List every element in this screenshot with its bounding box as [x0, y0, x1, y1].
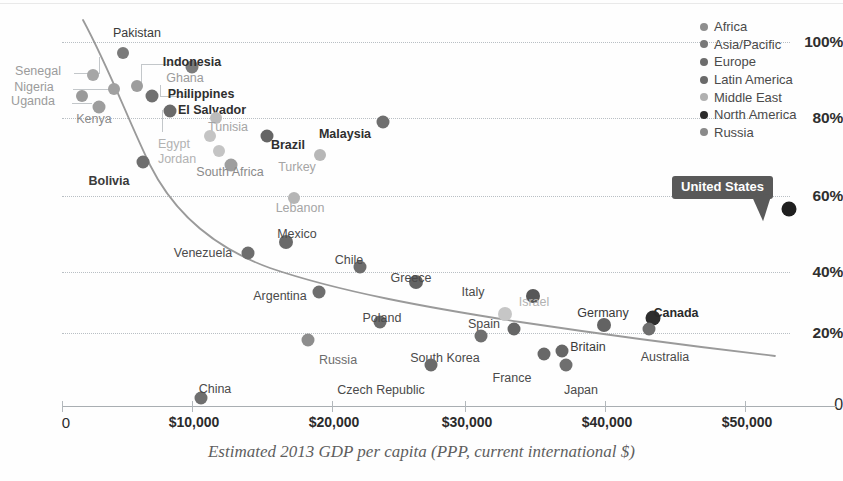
x-tick-0	[62, 401, 63, 412]
leader-senegal-v	[99, 57, 100, 74]
data-point[interactable]	[424, 359, 437, 372]
data-point[interactable]	[108, 83, 120, 95]
x-tick-label-10000: $10,000	[169, 414, 220, 430]
data-point[interactable]	[146, 90, 159, 103]
point-label: Israel	[519, 296, 550, 309]
data-point[interactable]	[314, 149, 326, 161]
point-label: Tunisia	[208, 121, 248, 134]
point-label: South Africa	[196, 166, 263, 179]
legend-label: Middle East	[714, 90, 782, 105]
data-point[interactable]	[643, 322, 656, 335]
x-axis-title: Estimated 2013 GDP per capita (PPP, curr…	[0, 442, 843, 462]
united-states-callout: United States	[672, 176, 773, 199]
y-tick-20: 20%	[785, 324, 843, 342]
data-point[interactable]	[131, 80, 143, 92]
legend-swatch-icon	[700, 76, 708, 84]
legend-label: North America	[714, 107, 796, 122]
data-point[interactable]	[163, 104, 176, 117]
point-label: Japan	[564, 384, 598, 397]
legend-item-asia-pacific[interactable]: Asia/Pacific	[700, 36, 840, 54]
gridline-100	[62, 42, 790, 43]
point-label: Spain	[468, 318, 500, 331]
legend-item-latin-america[interactable]: Latin America	[700, 71, 840, 89]
x-tick-20000	[332, 401, 333, 412]
legend-label: Africa	[714, 19, 747, 34]
data-point[interactable]	[377, 115, 390, 128]
point-label: Turkey	[278, 161, 316, 174]
legend-swatch-icon	[700, 128, 708, 136]
data-point[interactable]	[204, 130, 216, 142]
point-label: Philippines	[168, 88, 235, 101]
gridline-80	[62, 118, 790, 119]
point-label: Pakistan	[113, 27, 161, 40]
point-label: Venezuela	[174, 247, 232, 260]
data-point[interactable]	[312, 286, 325, 299]
data-point[interactable]	[117, 47, 129, 59]
data-point[interactable]	[781, 201, 796, 216]
point-label: Senegal	[15, 65, 61, 78]
y-tick-40: 40%	[785, 263, 843, 281]
legend-swatch-icon	[700, 40, 708, 48]
data-point[interactable]	[213, 145, 225, 157]
x-tick-30000	[465, 401, 466, 412]
legend-label: Asia/Pacific	[714, 37, 781, 52]
point-label: Russia	[319, 354, 357, 367]
point-label: Mexico	[277, 228, 317, 241]
point-label: Egypt	[158, 138, 190, 151]
point-label: Indonesia	[163, 56, 221, 69]
legend-swatch-icon	[700, 93, 708, 101]
legend-item-africa[interactable]: Africa	[700, 18, 840, 36]
legend-item-middle-east[interactable]: Middle East	[700, 88, 840, 106]
x-tick-40000	[605, 401, 606, 412]
x-tick-label-50000: $50,000	[722, 414, 773, 430]
data-point[interactable]	[301, 333, 314, 346]
legend-label: Europe	[714, 54, 756, 69]
leader-uganda	[72, 103, 92, 104]
legend-item-europe[interactable]: Europe	[700, 53, 840, 71]
point-label: China	[199, 383, 232, 396]
x-tick-10000	[192, 401, 193, 412]
legend-swatch-icon	[700, 58, 708, 66]
point-label: Malaysia	[319, 128, 371, 141]
data-point[interactable]	[508, 322, 521, 335]
legend-item-north-america[interactable]: North America	[700, 106, 840, 124]
point-label: Poland	[363, 312, 402, 325]
data-point[interactable]	[597, 318, 611, 332]
legend-label: Russia	[714, 125, 754, 140]
legend-swatch-icon	[700, 111, 708, 119]
point-label: Germany	[577, 307, 628, 320]
data-point[interactable]	[475, 330, 488, 343]
callout-tail	[752, 194, 776, 223]
point-label: France	[493, 372, 532, 385]
data-point[interactable]	[538, 348, 551, 361]
y-tick-0: 0	[785, 396, 843, 414]
legend-swatch-icon	[700, 23, 708, 31]
point-label: Chile	[335, 254, 364, 267]
data-point[interactable]	[87, 69, 99, 81]
point-label: Canada	[653, 307, 698, 320]
point-label: Australia	[641, 351, 690, 364]
legend-item-russia[interactable]: Russia	[700, 124, 840, 142]
point-label: Bolivia	[89, 175, 130, 188]
point-label: Ghana	[166, 72, 204, 85]
point-label: Brazil	[271, 139, 305, 152]
data-point[interactable]	[555, 344, 568, 357]
point-label: Italy	[462, 286, 485, 299]
y-tick-60: 60%	[785, 187, 843, 205]
x-tick-label-0: 0	[62, 414, 70, 431]
point-label: Nigeria	[14, 81, 54, 94]
point-label: Uganda	[11, 95, 55, 108]
x-tick-label-20000: $20,000	[309, 414, 360, 430]
data-point[interactable]	[76, 90, 88, 102]
point-label: Lebanon	[276, 202, 325, 215]
leader-philippines-v	[160, 85, 161, 97]
point-label: Britain	[570, 341, 605, 354]
x-tick-label-40000: $40,000	[582, 414, 633, 430]
data-point[interactable]	[560, 359, 573, 372]
point-label: Czech Republic	[337, 384, 425, 397]
data-point[interactable]	[136, 155, 149, 168]
point-label: Argentina	[253, 290, 307, 303]
point-label: Jordan	[158, 153, 196, 166]
data-point[interactable]	[241, 246, 254, 259]
point-label: South Korea	[410, 352, 480, 365]
